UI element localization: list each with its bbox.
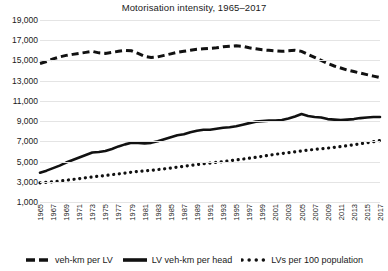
x-axis-tick-label: 1967	[49, 204, 58, 221]
x-axis: 1965196719691971197319751977197919811983…	[40, 204, 380, 250]
y-axis-tick-label: 15,000	[0, 55, 38, 65]
chart-container: Motorisation intensity, 1965–2017 1,0003…	[0, 0, 388, 271]
series-layer	[40, 20, 380, 202]
legend-label: veh-km per LV	[55, 255, 113, 265]
x-axis-tick-label: 1985	[167, 204, 176, 221]
gridline	[40, 81, 380, 82]
x-axis-tick-label: 2005	[298, 204, 307, 221]
y-axis-tick-label: 17,000	[0, 35, 38, 45]
legend-label: LVs per 100 population	[271, 255, 363, 265]
gridline	[40, 162, 380, 163]
x-axis-tick-label: 2013	[350, 204, 359, 221]
series-line	[40, 46, 380, 78]
legend-label: LV veh-km per head	[152, 255, 232, 265]
x-axis-tick-label: 1993	[219, 204, 228, 221]
legend-item[interactable]: LVs per 100 population	[241, 255, 363, 265]
x-axis-tick-label: 1991	[206, 204, 215, 221]
x-axis-tick-label: 1979	[128, 204, 137, 221]
x-axis-tick-label: 1997	[245, 204, 254, 221]
gridline	[40, 202, 380, 203]
x-axis-tick-label: 2011	[337, 204, 346, 220]
gridline	[40, 40, 380, 41]
x-axis-tick-label: 1973	[88, 204, 97, 221]
y-axis-tick-label: 5,000	[0, 157, 38, 167]
gridline	[40, 121, 380, 122]
x-axis-tick-label: 1983	[154, 204, 163, 221]
y-axis-tick-label: 19,000	[0, 15, 38, 25]
x-axis-tick-label: 1987	[180, 204, 189, 221]
x-axis-tick-label: 2009	[324, 204, 333, 221]
chart-title: Motorisation intensity, 1965–2017	[0, 2, 388, 13]
dotted-line-marker	[241, 255, 267, 265]
x-axis-tick-label: 2003	[284, 204, 293, 221]
legend-item[interactable]: LV veh-km per head	[122, 255, 232, 265]
x-axis-tick-label: 2001	[271, 204, 280, 221]
chart-legend: veh-km per LVLV veh-km per headLVs per 1…	[0, 252, 388, 268]
x-axis-tick-label: 1975	[101, 204, 110, 221]
x-axis-tick-label: 2007	[311, 204, 320, 221]
y-axis: 1,0003,0005,0007,0009,00011,00013,00015,…	[0, 20, 38, 202]
y-axis-tick-label: 9,000	[0, 116, 38, 126]
y-axis-tick-label: 7,000	[0, 136, 38, 146]
plot-area	[40, 20, 380, 202]
gridline	[40, 101, 380, 102]
x-axis-tick-label: 1995	[232, 204, 241, 221]
y-axis-tick-label: 13,000	[0, 76, 38, 86]
x-axis-tick-label: 1999	[258, 204, 267, 221]
gridline	[40, 182, 380, 183]
x-axis-tick-label: 2015	[363, 204, 372, 221]
gridline	[40, 141, 380, 142]
x-axis-tick-label: 2017	[376, 204, 385, 221]
solid-line-marker	[122, 255, 148, 265]
legend-item[interactable]: veh-km per LV	[25, 255, 113, 265]
y-axis-tick-label: 3,000	[0, 177, 38, 187]
gridline	[40, 20, 380, 21]
y-axis-tick-label: 1,000	[0, 197, 38, 207]
x-axis-tick-label: 1977	[114, 204, 123, 221]
x-axis-tick-label: 1981	[141, 204, 150, 221]
x-axis-tick-label: 1965	[36, 204, 45, 221]
gridline	[40, 60, 380, 61]
x-axis-tick-label: 1971	[75, 204, 84, 221]
x-axis-tick-label: 1969	[62, 204, 71, 221]
y-axis-tick-label: 11,000	[0, 96, 38, 106]
x-axis-tick-label: 1989	[193, 204, 202, 221]
dashed-line-marker	[25, 255, 51, 265]
